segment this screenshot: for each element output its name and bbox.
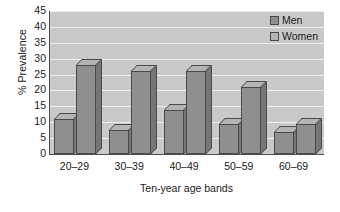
bar-front-face bbox=[164, 110, 184, 154]
bar-front-face bbox=[186, 71, 206, 154]
bar-front-face bbox=[274, 132, 294, 154]
bar-men-40–49 bbox=[164, 110, 184, 154]
y-axis-tick-label: 5 bbox=[22, 132, 46, 142]
legend-swatch-icon bbox=[270, 16, 279, 25]
x-axis-tick-label: 40–49 bbox=[157, 160, 211, 172]
legend-item-women[interactable]: Women bbox=[270, 30, 330, 42]
bar-women-50–59 bbox=[241, 87, 261, 154]
y-axis-tick-label: 15 bbox=[22, 100, 46, 110]
bar-front-face bbox=[76, 65, 96, 154]
bar-side-face bbox=[206, 65, 212, 154]
bar-front-face bbox=[131, 71, 151, 154]
bar-front-face bbox=[109, 130, 129, 154]
bar-men-30–39 bbox=[109, 130, 129, 154]
bar-women-20–29 bbox=[76, 65, 96, 154]
y-axis-tick-label: 35 bbox=[22, 37, 46, 47]
x-axis-tick-label: 50–59 bbox=[212, 160, 266, 172]
y-axis-tick-label: 0 bbox=[22, 148, 46, 158]
legend-item-men[interactable]: Men bbox=[270, 14, 330, 26]
x-axis-title: Ten-year age bands bbox=[49, 182, 324, 194]
y-axis-tick-label: 10 bbox=[22, 116, 46, 126]
y-axis-tick-label: 25 bbox=[22, 69, 46, 79]
legend-item-label: Women bbox=[282, 31, 318, 42]
bar-front-face bbox=[296, 124, 316, 154]
x-axis-tick-label: 20–29 bbox=[47, 160, 101, 172]
chart-legend: MenWomen bbox=[270, 14, 330, 46]
bar-women-40–49 bbox=[186, 71, 206, 154]
x-axis-tick-labels: 20–2930–3940–4950–5960–69 bbox=[49, 160, 324, 176]
bar-men-50–59 bbox=[219, 124, 239, 154]
bar-front-face bbox=[54, 119, 74, 154]
bar-side-face bbox=[261, 81, 267, 154]
x-axis-tick-label: 30–39 bbox=[102, 160, 156, 172]
y-axis-tick-labels: 051015202530354045 bbox=[22, 10, 46, 158]
y-axis-tick-label: 30 bbox=[22, 53, 46, 63]
bar-men-60–69 bbox=[274, 132, 294, 154]
bar-women-60–69 bbox=[296, 124, 316, 154]
bar-side-face bbox=[96, 59, 102, 154]
bar-women-30–39 bbox=[131, 71, 151, 154]
y-axis-tick-label: 20 bbox=[22, 84, 46, 94]
bar-front-face bbox=[219, 124, 239, 154]
bar-front-face bbox=[241, 87, 261, 154]
y-axis-tick-label: 45 bbox=[22, 5, 46, 15]
legend-swatch-icon bbox=[270, 32, 279, 41]
chart-figure: % Prevalence 051015202530354045 20–2930–… bbox=[0, 0, 340, 212]
legend-item-label: Men bbox=[282, 15, 302, 26]
y-axis-tick-label: 40 bbox=[22, 21, 46, 31]
bar-men-20–29 bbox=[54, 119, 74, 154]
x-axis-tick-label: 60–69 bbox=[267, 160, 321, 172]
bar-side-face bbox=[151, 65, 157, 154]
